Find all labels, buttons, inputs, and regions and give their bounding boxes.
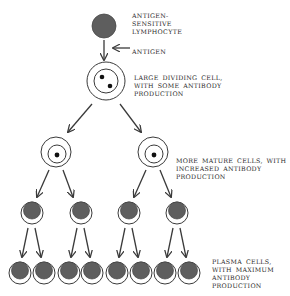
arrow-icon <box>22 228 28 257</box>
plasma-cells-cell <box>178 262 200 284</box>
arrow-icon <box>167 228 173 257</box>
arrow-icon <box>68 104 92 132</box>
plasma-cells-cell <box>106 262 128 284</box>
cytoplasm-icon <box>133 262 150 279</box>
arrow-icon <box>84 228 90 257</box>
cytoplasm-icon <box>109 262 126 279</box>
arrow-icon <box>134 170 146 197</box>
cytoplasm-icon <box>61 262 78 279</box>
more-mature-cells-cell <box>41 137 71 167</box>
arrow-icon <box>132 228 138 257</box>
label-more-mature-cells: MORE MATURE CELLS, WITH INCREASED ANTIBO… <box>176 157 286 181</box>
plasma-cells-cell <box>154 262 176 284</box>
cytoplasm-icon <box>12 262 29 279</box>
plasma-cells-cell <box>9 262 31 284</box>
antigen-sensitive-lymphocyte-cell <box>92 14 116 38</box>
plasma-cells-cell <box>81 262 103 284</box>
plasma-cells-cell <box>58 262 80 284</box>
label-plasma-cells: PLASMA CELLS, WITH MAXIMUM ANTIBODY PROD… <box>212 258 274 290</box>
arrow-icon <box>180 228 186 257</box>
cytoplasm-icon <box>36 262 53 279</box>
label-antigen: ANTIGEN <box>132 48 166 56</box>
cytoplasm-icon <box>157 262 174 279</box>
cytoplasm-icon <box>121 202 138 219</box>
more-mature-cells-cell <box>138 137 168 167</box>
cytoplasm-icon <box>24 202 41 219</box>
cell-body-icon <box>92 14 116 38</box>
nucleus-icon <box>152 153 157 158</box>
arrow-icon <box>120 104 141 132</box>
plasma-cell-differentiation-diagram <box>0 0 290 296</box>
intermediate-plasma-cells-cell <box>21 202 43 224</box>
label-large-dividing-cell: LARGE DIVIDING CELL, WITH SOME ANTIBODY … <box>134 74 223 98</box>
cytoplasm-icon <box>73 202 90 219</box>
nucleus-icon <box>55 153 60 158</box>
cytoplasm-icon <box>84 262 101 279</box>
arrow-icon <box>63 170 73 197</box>
intermediate-plasma-cells-cell <box>118 202 140 224</box>
arrow-icon <box>37 170 49 197</box>
cytoplasm-icon <box>181 262 198 279</box>
arrow-icon <box>71 228 77 257</box>
plasma-cells-cell <box>33 262 55 284</box>
large-dividing-cell-cell <box>87 62 125 100</box>
intermediate-plasma-cells-cell <box>166 202 188 224</box>
intermediate-plasma-cells-cell <box>70 202 92 224</box>
cytoplasm-icon <box>169 202 186 219</box>
label-antigen-sensitive-lymphocyte: ANTIGEN- SENSITIVE LYMPHOCYTE <box>132 12 182 36</box>
arrow-icon <box>160 170 171 197</box>
nucleus-icon <box>108 84 113 89</box>
inner-membrane-icon <box>94 69 118 93</box>
plasma-cells-cell <box>130 262 152 284</box>
nucleus-icon <box>100 75 105 80</box>
arrow-icon <box>35 228 41 257</box>
arrow-icon <box>119 228 125 257</box>
